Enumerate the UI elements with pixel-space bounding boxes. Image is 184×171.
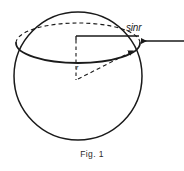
radius-vector-dashed <box>78 51 133 79</box>
latitude-circle-front-solid <box>16 43 140 63</box>
label-sin-r: sinr <box>126 23 141 33</box>
label-angle-r: r <box>76 64 78 71</box>
figure-caption: Fig. 1 <box>0 150 184 159</box>
sphere-outline <box>14 12 142 140</box>
figure-container: sinr r Fig. 1 <box>0 0 184 171</box>
sphere-diagram-svg <box>0 0 184 171</box>
latitude-circle-back-dashed <box>16 23 140 43</box>
